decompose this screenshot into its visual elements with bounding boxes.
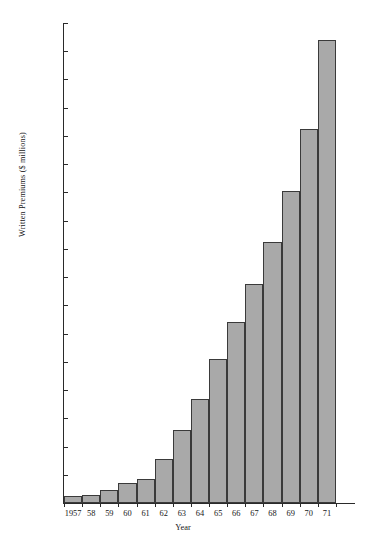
x-axis-tick-mark [191,503,192,507]
y-axis-tick-label-wrap: 200 [0,447,63,448]
bar [209,359,227,503]
y-axis-tick-label-wrap: 700 [0,305,63,306]
y-axis-tick-label-wrap: 500 [0,362,63,363]
y-axis-tick-label-wrap: 1100 [0,192,63,193]
bar [100,490,118,503]
bar [300,129,318,503]
y-axis-tick-label-wrap: 1200 [0,164,63,165]
x-axis-tick-mark [300,503,301,507]
x-axis-tick-mark [118,503,119,507]
bar [82,495,100,503]
bar-chart: Written Premiums ($ millions) 0100200300… [0,0,366,547]
y-axis-title: Written Premiums ($ millions) [18,85,27,285]
y-axis-tick-label-wrap: 400 [0,390,63,391]
y-axis-tick-label-wrap: 1600 [0,51,63,52]
y-axis-tick-label-wrap: 300 [0,418,63,419]
bar [64,496,82,503]
y-axis-tick-label-wrap: 1400 [0,108,63,109]
x-axis-tick-mark [336,503,337,507]
x-axis-tick-mark [318,503,319,507]
bar [263,242,281,503]
x-axis-tick-mark [155,503,156,507]
y-axis-tick-label-wrap: 900 [0,249,63,250]
x-axis-tick-mark [263,503,264,507]
x-axis-tick-mark [64,503,65,507]
y-axis-tick-label-wrap: 0 [0,503,63,504]
bar [173,430,191,503]
x-axis-tick-mark [209,503,210,507]
x-axis-tick-label: 71 [310,508,344,519]
plot-area [64,23,336,503]
bar [245,284,263,503]
y-axis-tick-label-wrap: 1500 [0,79,63,80]
bar [155,459,173,503]
x-axis-tick-mark [227,503,228,507]
x-axis-tick-mark [173,503,174,507]
bar [227,322,245,503]
y-axis-tick-label-wrap: 1300 [0,136,63,137]
bar [118,483,136,503]
y-axis-tick-label-wrap: 100 [0,475,63,476]
x-axis-tick-mark [100,503,101,507]
x-axis-tick-mark [245,503,246,507]
x-axis-tick-mark [82,503,83,507]
y-axis-tick-label-wrap: 1000 [0,221,63,222]
bar [318,40,336,503]
x-axis-title: Year [0,523,366,532]
y-axis-tick-label-wrap: 1700 [0,23,63,24]
bar [282,191,300,503]
x-axis-tick-mark [137,503,138,507]
bar [191,399,209,503]
y-axis-tick-label-wrap: 800 [0,277,63,278]
x-axis-tick-mark [282,503,283,507]
bar [137,479,155,503]
y-axis-tick-label-wrap: 600 [0,334,63,335]
